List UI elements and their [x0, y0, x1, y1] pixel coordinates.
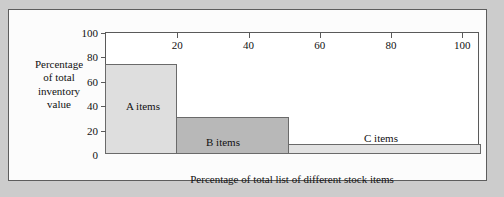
- x-tick-mark-20: [177, 33, 178, 38]
- bar-label-b-items: B items: [206, 137, 240, 148]
- x-tick-mark-80: [391, 33, 392, 38]
- bar-label-c-items: C items: [364, 133, 398, 144]
- bar-c-items: [288, 144, 481, 154]
- x-tick-label-20: 20: [172, 40, 183, 51]
- y-axis-title-line-2: of total: [21, 71, 97, 84]
- x-tick-label-40: 40: [243, 40, 254, 51]
- x-tick-label-60: 60: [314, 40, 325, 51]
- x-tick-mark-100: [462, 33, 463, 38]
- x-tick-label-100: 100: [454, 40, 471, 51]
- y-tick-label-100: 100: [82, 28, 99, 39]
- x-tick-mark-60: [320, 33, 321, 38]
- y-axis-title-line-4: value: [21, 98, 97, 111]
- y-tick-mark-40: [101, 106, 106, 107]
- y-axis-title: Percentage of total inventory value: [21, 58, 97, 112]
- plot-area: A items B items C items 100 80 60 40 20 …: [105, 32, 479, 154]
- y-tick-mark-80: [101, 57, 106, 58]
- x-tick-mark-40: [249, 33, 250, 38]
- y-tick-label-0: 0: [93, 150, 99, 161]
- bar-label-a-items: A items: [126, 101, 160, 112]
- x-tick-label-80: 80: [386, 40, 397, 51]
- y-tick-label-40: 40: [87, 101, 98, 112]
- y-axis-title-line-1: Percentage: [21, 58, 97, 71]
- x-axis-title: Percentage of total list of different st…: [105, 174, 479, 185]
- y-tick-mark-60: [101, 82, 106, 83]
- y-tick-mark-20: [101, 131, 106, 132]
- y-tick-mark-100: [101, 33, 106, 34]
- y-tick-label-80: 80: [87, 52, 98, 63]
- figure-panel: Percentage of total inventory value A it…: [8, 9, 487, 181]
- y-tick-label-20: 20: [87, 125, 98, 136]
- y-tick-label-60: 60: [87, 76, 98, 87]
- y-axis-title-line-3: inventory: [21, 85, 97, 98]
